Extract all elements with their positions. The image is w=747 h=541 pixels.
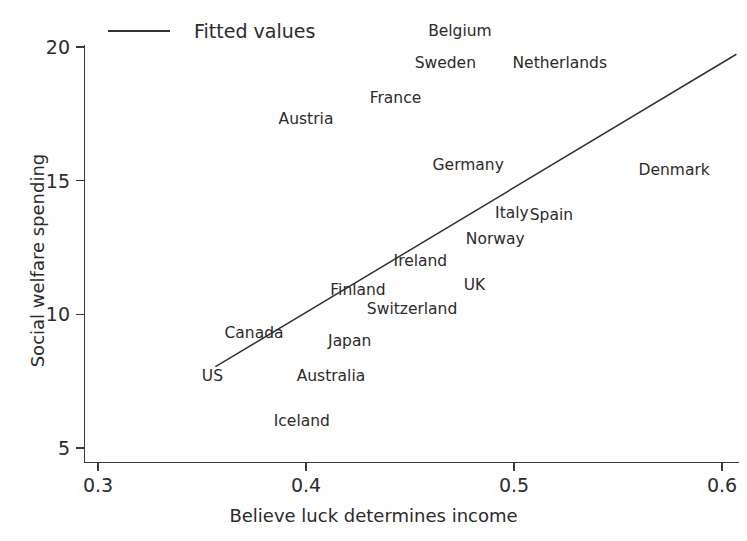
point-label-france: France — [370, 89, 422, 107]
y-axis-title: Social welfare spending — [27, 131, 48, 391]
point-label-japan: Japan — [328, 332, 371, 350]
point-label-finland: Finland — [330, 281, 385, 299]
legend-line-swatch — [108, 30, 170, 32]
y-tick-mark — [76, 447, 85, 448]
chart-legend: Fitted values — [108, 20, 315, 42]
x-tick-mark — [721, 462, 722, 471]
point-label-us: US — [202, 367, 223, 385]
x-tick-label: 0.4 — [291, 474, 321, 496]
point-label-canada: Canada — [225, 324, 284, 342]
point-label-sweden: Sweden — [415, 54, 476, 72]
x-tick-label: 0.5 — [499, 474, 529, 496]
legend-label-fitted-values: Fitted values — [194, 20, 315, 42]
point-label-iceland: Iceland — [274, 412, 330, 430]
x-tick-mark — [513, 462, 514, 471]
point-label-netherlands: Netherlands — [513, 54, 607, 72]
y-axis-line — [84, 45, 85, 463]
x-axis-line — [84, 462, 739, 463]
point-label-italy: Italy — [495, 204, 529, 222]
y-tick-label: 5 — [0, 437, 70, 459]
point-label-norway: Norway — [466, 230, 525, 248]
x-tick-mark — [97, 462, 98, 471]
x-axis-title: Believe luck determines income — [0, 505, 747, 526]
x-tick-mark — [305, 462, 306, 471]
point-label-australia: Australia — [297, 367, 366, 385]
y-tick-mark — [76, 314, 85, 315]
y-tick-mark — [76, 46, 85, 47]
point-label-germany: Germany — [433, 156, 504, 174]
x-tick-label: 0.3 — [83, 474, 113, 496]
point-label-belgium: Belgium — [428, 22, 492, 40]
scatter-chart: 5101520 0.30.40.50.6 BelgiumSwedenNether… — [0, 0, 747, 541]
point-label-uk: UK — [464, 276, 486, 294]
point-label-spain: Spain — [530, 206, 573, 224]
y-tick-label: 20 — [0, 36, 70, 58]
point-label-switzerland: Switzerland — [367, 300, 457, 318]
fitted-values-line — [0, 0, 747, 541]
y-tick-mark — [76, 180, 85, 181]
x-tick-label: 0.6 — [707, 474, 737, 496]
point-label-ireland: Ireland — [394, 252, 448, 270]
point-label-austria: Austria — [279, 110, 334, 128]
point-label-denmark: Denmark — [639, 161, 710, 179]
